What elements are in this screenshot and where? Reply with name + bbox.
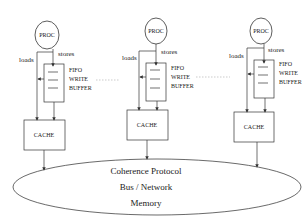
write-buffer bbox=[44, 64, 64, 102]
stores-label: stores bbox=[58, 50, 75, 58]
shared-memory-system: Coherence Protocol Bus / Network Memory bbox=[13, 159, 301, 215]
bus-network-label: Bus / Network bbox=[120, 182, 173, 192]
node-3: PROC stores loads FIFO WRITE BUFFER CACH… bbox=[229, 18, 302, 167]
buffer-line: BUFFER bbox=[69, 85, 92, 91]
coherence-protocol-label: Coherence Protocol bbox=[110, 166, 182, 176]
node-2: PROC stores loads FIFO WRITE BUFFER CACH… bbox=[122, 18, 194, 159]
node-1: PROC stores loads FIFO WRITE BUFFER CACH… bbox=[19, 21, 92, 170]
buffer-line: BUFFER bbox=[279, 79, 302, 85]
cache-label: CACHE bbox=[244, 124, 265, 130]
write-buffer bbox=[146, 63, 166, 101]
buffer-line: WRITE bbox=[279, 70, 298, 76]
memory-label: Memory bbox=[131, 198, 162, 208]
buffer-line: WRITE bbox=[69, 76, 88, 82]
loads-label: loads bbox=[229, 52, 244, 60]
buffer-line: WRITE bbox=[171, 74, 190, 80]
buffer-line: FIFO bbox=[69, 67, 83, 73]
loads-label: loads bbox=[19, 56, 34, 64]
write-buffer bbox=[254, 60, 274, 98]
stores-label: stores bbox=[161, 48, 178, 56]
buffer-line: BUFFER bbox=[171, 83, 194, 89]
proc-label: PROC bbox=[148, 28, 164, 34]
proc-label: PROC bbox=[39, 32, 55, 38]
buffer-line: FIFO bbox=[171, 65, 185, 71]
buffer-line: FIFO bbox=[279, 61, 293, 67]
cache-label: CACHE bbox=[34, 132, 55, 138]
diagram-canvas: PROC stores loads FIFO WRITE BUFFER CACH… bbox=[0, 0, 304, 219]
loads-label: loads bbox=[122, 54, 137, 62]
cache-label: CACHE bbox=[137, 122, 158, 128]
proc-label: PROC bbox=[253, 28, 269, 34]
stores-label: stores bbox=[268, 46, 285, 54]
